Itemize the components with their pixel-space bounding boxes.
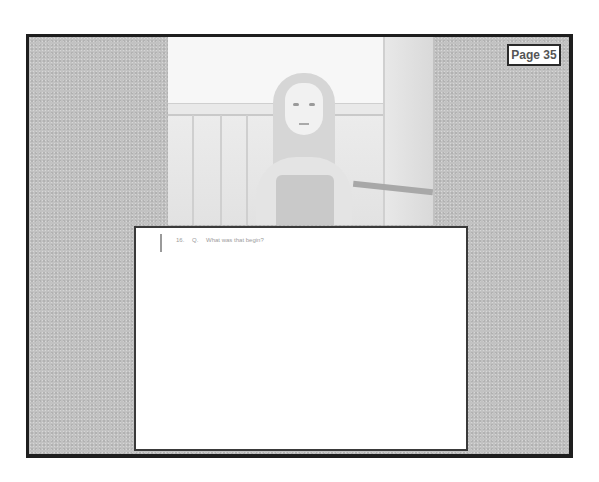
wall-plank — [220, 115, 222, 225]
eye — [293, 103, 299, 106]
line-number: 16. — [176, 237, 184, 243]
face — [285, 83, 323, 135]
tank-top — [276, 175, 334, 225]
wall-plank — [192, 115, 194, 225]
slide-frame: Page 35 16. Q. What was that begin? — [26, 34, 573, 458]
mouth — [299, 123, 309, 125]
transcript-line: 16. Q. What was that begin? — [176, 237, 270, 243]
line-text: What was that begin? — [206, 237, 264, 243]
video-still — [168, 37, 433, 225]
margin-marker — [160, 234, 162, 252]
eye — [309, 103, 315, 106]
window-panel — [383, 37, 433, 225]
speaker-label: Q. — [192, 237, 198, 243]
page-number-badge: Page 35 — [507, 44, 561, 66]
transcript-panel: 16. Q. What was that begin? — [134, 226, 468, 451]
person-figure — [228, 67, 378, 225]
